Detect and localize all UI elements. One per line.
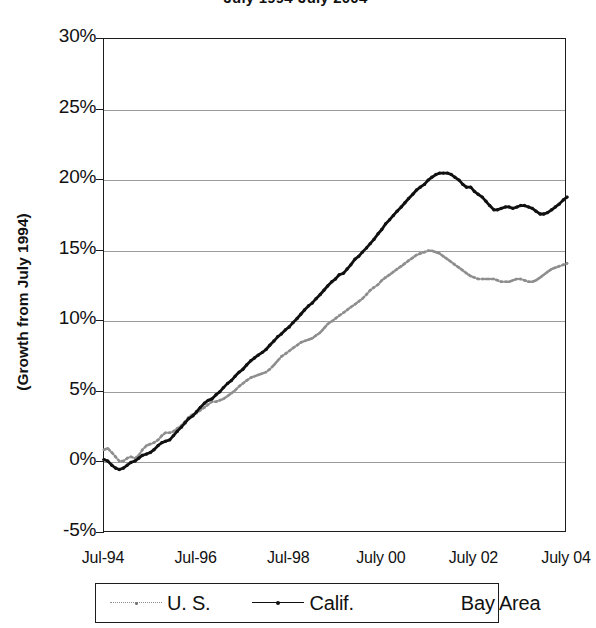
data-point [106,459,109,462]
data-point [477,278,480,281]
data-point [419,186,422,189]
data-point [110,464,113,467]
legend-label-calif: Calif. [309,592,353,615]
data-point [527,205,530,208]
data-point [507,205,510,208]
data-point [314,297,317,300]
data-point [388,218,391,221]
data-point [504,280,507,283]
data-point [384,276,387,279]
data-point [357,300,360,303]
data-point [434,173,437,176]
data-point [207,403,210,406]
data-point [481,278,484,281]
data-point [199,406,202,409]
data-point [504,205,507,208]
legend-item-calif[interactable]: Calif. [252,592,353,615]
data-point [130,455,133,458]
data-point [284,328,287,331]
data-point [473,190,476,193]
data-point [372,238,375,241]
data-point [407,259,410,262]
data-point [103,448,106,451]
data-point [508,280,511,283]
data-point [330,280,333,283]
y-tick-label: 15% [34,237,96,259]
data-point [450,261,453,264]
data-point [381,279,384,282]
data-point [462,269,465,272]
data-point [238,385,241,388]
data-point [295,317,298,320]
legend-marker-none-icon [404,596,456,610]
legend-marker-dotted-icon [110,596,162,610]
data-point [562,198,565,201]
x-tick-label: July 04 [521,549,596,567]
data-point [292,347,295,350]
data-point [500,207,503,210]
data-point [531,207,534,210]
data-point [218,399,221,402]
data-point [500,280,503,283]
data-point [326,323,329,326]
data-point [342,312,345,315]
data-point [233,375,236,378]
x-tick-label: Jul-94 [58,549,148,567]
data-point [311,301,314,304]
data-point [423,183,426,186]
y-tick-label: 25% [34,96,96,118]
data-point [118,460,121,463]
data-point [172,430,175,433]
data-point [349,263,352,266]
data-point [315,334,318,337]
data-point [253,375,256,378]
data-point [550,208,553,211]
data-point [535,279,538,282]
data-point [481,195,484,198]
data-point [442,255,445,258]
data-point [430,176,433,179]
data-point [538,212,541,215]
data-point [141,454,144,457]
data-point [307,338,310,341]
data-point [175,430,178,433]
data-point [241,368,244,371]
data-point [249,376,252,379]
data-point [426,178,429,181]
data-point [345,267,348,270]
data-point [331,320,334,323]
data-point [554,266,557,269]
y-tick-label: 30% [34,25,96,47]
data-point [485,278,488,281]
data-point [369,242,372,245]
y-tick-mark [96,532,104,533]
legend-item-us[interactable]: U. S. [110,592,210,615]
data-point [392,214,395,217]
data-point [519,278,522,281]
data-point [299,341,302,344]
data-point [149,443,152,446]
data-point [519,204,522,207]
data-point [407,197,410,200]
data-point [488,204,491,207]
data-point [126,457,129,460]
data-point [234,389,237,392]
data-point [400,265,403,268]
data-point [438,171,441,174]
data-point [160,441,163,444]
data-point [157,439,160,442]
data-point [435,251,438,254]
legend-item-bay-area[interactable]: Bay Area [404,592,541,615]
data-point [515,205,518,208]
data-point [264,348,267,351]
data-point [133,459,136,462]
data-point [268,344,271,347]
data-point [230,379,233,382]
data-point [465,272,468,275]
data-point [442,171,445,174]
x-tick-label: July 00 [336,549,426,567]
data-point [114,455,117,458]
data-point [400,205,403,208]
data-point [334,317,337,320]
data-point [450,173,453,176]
